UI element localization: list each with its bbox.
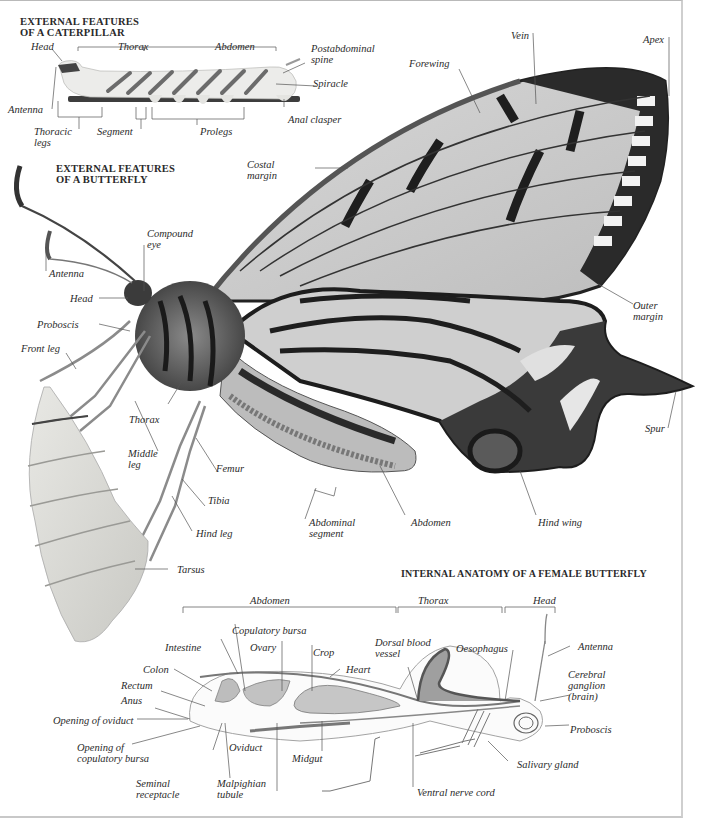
butterfly-label-vein: Vein bbox=[511, 30, 529, 41]
label-line: copulatory bursa bbox=[77, 753, 149, 764]
butterfly-label-middle-leg: Middle leg bbox=[128, 448, 158, 470]
butterfly-label-spur: Spur bbox=[645, 423, 665, 434]
internal-anatomy-drawing bbox=[132, 607, 570, 791]
internal-label-oviduct: Oviduct bbox=[229, 742, 262, 753]
butterfly-label-femur: Femur bbox=[216, 463, 244, 474]
internal-label-opening-of-oviduct: Opening of oviduct bbox=[53, 715, 133, 726]
internal-label-opening-of-copulatory-bursa: Opening of copulatory bursa bbox=[77, 742, 149, 764]
butterfly-label-hind-leg: Hind leg bbox=[196, 528, 232, 539]
label-line: tubule bbox=[217, 789, 243, 800]
label-line: segment bbox=[309, 528, 343, 539]
internal-label-salivary-gland: Salivary gland bbox=[517, 759, 579, 770]
internal-label-malpighian-tubule: Malpighian tubule bbox=[217, 778, 266, 800]
internal-label-proboscis: Proboscis bbox=[570, 724, 612, 735]
label-line: ganglion bbox=[568, 680, 605, 691]
butterfly-label-forewing: Forewing bbox=[409, 58, 449, 69]
caterpillar-label-antenna: Antenna bbox=[8, 104, 43, 115]
caterpillar-label-prolegs: Prolegs bbox=[200, 126, 232, 137]
label-line: vessel bbox=[375, 648, 400, 659]
caterpillar-label-segment: Segment bbox=[97, 126, 133, 137]
caterpillar-label-anal-clasper: Anal clasper bbox=[288, 114, 341, 125]
internal-label-dorsal-blood-vessel: Dorsal blood vessel bbox=[375, 637, 431, 659]
internal-label-oesophagus: Oesophagus bbox=[456, 643, 508, 654]
label-line: Cerebral bbox=[568, 669, 606, 680]
internal-label-cerebral-ganglion: Cerebral ganglion (brain) bbox=[568, 669, 606, 702]
butterfly-label-abdominal-segment: Abdominal segment bbox=[309, 517, 355, 539]
caterpillar-label-head: Head bbox=[31, 41, 54, 52]
internal-region-thorax: Thorax bbox=[418, 595, 448, 606]
butterfly-label-front-leg: Front leg bbox=[21, 343, 60, 354]
label-line: Postabdominal bbox=[311, 43, 375, 54]
butterfly-forewing bbox=[205, 69, 668, 302]
butterfly-label-costal-margin: Costal margin bbox=[247, 159, 277, 181]
butterfly-label-outer-margin: Outer margin bbox=[633, 300, 663, 322]
butterfly-label-compound-eye: Compound eye bbox=[147, 228, 193, 250]
caterpillar-heading-line-1: EXTERNAL FEATURES bbox=[20, 16, 139, 27]
label-line: Outer bbox=[633, 300, 658, 311]
internal-label-anus: Anus bbox=[121, 695, 142, 706]
internal-label-colon: Colon bbox=[143, 664, 169, 675]
label-line: Opening of bbox=[77, 742, 124, 753]
internal-label-midgut: Midgut bbox=[292, 753, 322, 764]
caterpillar-label-thoracic-legs: Thoracic legs bbox=[34, 126, 72, 148]
label-line: Middle bbox=[128, 448, 158, 459]
internal-label-seminal-receptacle: Seminal receptacle bbox=[136, 778, 179, 800]
butterfly-label-head: Head bbox=[70, 293, 93, 304]
label-line: (brain) bbox=[568, 691, 598, 702]
label-line: margin bbox=[633, 311, 663, 322]
reference-page: EXTERNAL FEATURES OF A CATERPILLAR Head … bbox=[0, 0, 683, 818]
internal-label-antenna: Antenna bbox=[578, 641, 613, 652]
internal-label-copulatory-bursa: Copulatory bursa bbox=[232, 625, 306, 636]
caterpillar-heading-line-2: OF A CATERPILLAR bbox=[20, 27, 139, 38]
butterfly-label-tibia: Tibia bbox=[208, 495, 230, 506]
internal-region-abdomen: Abdomen bbox=[250, 595, 290, 606]
internal-label-ventral-nerve-cord: Ventral nerve cord bbox=[417, 787, 495, 798]
label-line: receptacle bbox=[136, 789, 179, 800]
label-line: Costal bbox=[247, 159, 274, 170]
butterfly-label-thorax: Thorax bbox=[129, 414, 159, 425]
internal-label-ovary: Ovary bbox=[250, 642, 276, 653]
label-line: legs bbox=[34, 137, 51, 148]
label-line: Dorsal blood bbox=[375, 637, 431, 648]
internal-label-rectum: Rectum bbox=[121, 680, 153, 691]
caterpillar-illustration bbox=[58, 59, 300, 104]
butterfly-label-hind-wing: Hind wing bbox=[538, 517, 582, 528]
label-line: Thoracic bbox=[34, 126, 72, 137]
butterfly-heading: EXTERNAL FEATURES OF A BUTTERFLY bbox=[56, 163, 175, 185]
label-line: eye bbox=[147, 239, 161, 250]
label-line: Seminal bbox=[136, 778, 170, 789]
label-line: margin bbox=[247, 170, 277, 181]
internal-region-head: Head bbox=[533, 595, 556, 606]
butterfly-label-abdomen: Abdomen bbox=[411, 517, 451, 528]
label-line: Abdominal bbox=[309, 517, 355, 528]
label-line: spine bbox=[311, 54, 333, 65]
label-line: Compound bbox=[147, 228, 193, 239]
butterfly-label-apex: Apex bbox=[643, 34, 664, 45]
internal-label-heart: Heart bbox=[346, 664, 371, 675]
label-line: leg bbox=[128, 459, 141, 470]
caterpillar-label-thorax: Thorax bbox=[118, 41, 148, 52]
internal-label-intestine: Intestine bbox=[165, 642, 201, 653]
butterfly-heading-line-2: OF A BUTTERFLY bbox=[56, 174, 175, 185]
caterpillar-heading: EXTERNAL FEATURES OF A CATERPILLAR bbox=[20, 16, 139, 38]
caterpillar-label-spiracle: Spiracle bbox=[313, 78, 348, 89]
internal-anatomy-heading: INTERNAL ANATOMY OF A FEMALE BUTTERFLY bbox=[401, 568, 647, 579]
butterfly-label-antenna: Antenna bbox=[49, 268, 84, 279]
caterpillar-label-postabdominal-spine: Postabdominal spine bbox=[311, 43, 375, 65]
caterpillar-label-abdomen: Abdomen bbox=[215, 41, 255, 52]
internal-label-crop: Crop bbox=[313, 647, 334, 658]
butterfly-heading-line-1: EXTERNAL FEATURES bbox=[56, 163, 175, 174]
label-line: Malpighian bbox=[217, 778, 266, 789]
butterfly-label-proboscis: Proboscis bbox=[37, 319, 79, 330]
butterfly-label-tarsus: Tarsus bbox=[177, 564, 205, 575]
